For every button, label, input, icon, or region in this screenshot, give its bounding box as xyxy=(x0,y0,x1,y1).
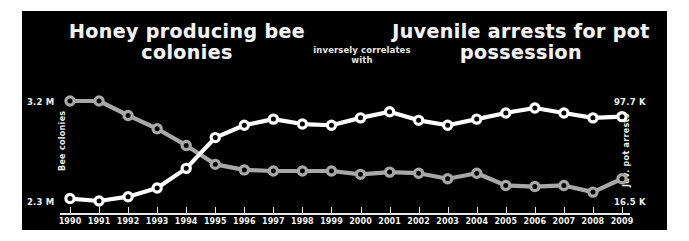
data-point-marker xyxy=(124,111,132,119)
x-axis-label-2005: 2005 xyxy=(494,217,517,226)
x-axis-tick xyxy=(564,207,565,213)
x-axis-tick xyxy=(215,207,216,213)
x-axis-tick xyxy=(390,207,391,213)
data-point-marker xyxy=(153,125,161,133)
data-point-marker xyxy=(240,121,248,129)
data-point-marker xyxy=(269,167,277,175)
data-point-marker xyxy=(560,181,568,189)
x-axis-tick xyxy=(361,207,362,213)
x-axis-label-1990: 1990 xyxy=(59,217,82,226)
data-point-marker xyxy=(385,108,393,116)
x-axis-line xyxy=(60,213,630,215)
x-axis-tick xyxy=(128,207,129,213)
data-point-marker xyxy=(95,97,103,105)
x-axis-tick xyxy=(506,207,507,213)
data-point-marker xyxy=(356,170,364,178)
data-point-marker xyxy=(298,120,306,128)
x-axis-tick xyxy=(302,207,303,213)
data-point-marker xyxy=(124,193,132,201)
data-point-marker xyxy=(269,115,277,123)
data-point-marker xyxy=(589,188,597,196)
data-point-marker xyxy=(444,175,452,183)
data-point-marker xyxy=(66,194,74,202)
data-point-marker xyxy=(211,133,219,141)
x-axis-tick xyxy=(244,207,245,213)
data-point-marker xyxy=(415,116,423,124)
data-point-marker xyxy=(182,141,190,149)
data-point-marker xyxy=(502,181,510,189)
x-axis-tick xyxy=(448,207,449,213)
x-axis-label-1995: 1995 xyxy=(204,217,227,226)
data-point-marker xyxy=(618,113,626,121)
data-point-marker xyxy=(618,175,626,183)
x-axis-label-1991: 1991 xyxy=(88,217,111,226)
plot-area xyxy=(22,11,667,230)
series-lines xyxy=(22,11,667,230)
series-bee-colonies xyxy=(66,97,626,196)
x-axis-label-1996: 1996 xyxy=(233,217,256,226)
data-point-marker xyxy=(66,97,74,105)
x-axis-label-2001: 2001 xyxy=(378,217,401,226)
data-point-marker xyxy=(153,184,161,192)
x-axis-label-2008: 2008 xyxy=(582,217,605,226)
data-point-marker xyxy=(444,121,452,129)
x-axis-label-1999: 1999 xyxy=(320,217,343,226)
x-axis-label-2009: 2009 xyxy=(611,217,634,226)
data-point-marker xyxy=(473,169,481,177)
x-axis-label-2000: 2000 xyxy=(349,217,372,226)
data-point-marker xyxy=(502,109,510,117)
data-point-marker xyxy=(327,121,335,129)
x-axis-tick xyxy=(419,207,420,213)
data-point-marker xyxy=(356,114,364,122)
data-point-marker xyxy=(589,114,597,122)
x-axis-label-2006: 2006 xyxy=(523,217,546,226)
x-axis-tick xyxy=(99,207,100,213)
x-axis-tick xyxy=(70,207,71,213)
x-axis-tick xyxy=(273,207,274,213)
data-point-marker xyxy=(240,166,248,174)
x-axis-label-1998: 1998 xyxy=(291,217,314,226)
x-axis-tick xyxy=(535,207,536,213)
series-pot-arrests xyxy=(66,104,626,205)
data-point-marker xyxy=(385,168,393,176)
data-point-marker xyxy=(95,197,103,205)
x-axis-tick xyxy=(622,207,623,213)
x-axis-tick xyxy=(477,207,478,213)
x-axis-tick xyxy=(186,207,187,213)
x-axis-label-2003: 2003 xyxy=(436,217,459,226)
x-axis-label-1994: 1994 xyxy=(175,217,198,226)
x-axis-label-2007: 2007 xyxy=(553,217,576,226)
data-point-marker xyxy=(298,167,306,175)
data-point-marker xyxy=(327,167,335,175)
x-axis-label-1993: 1993 xyxy=(146,217,169,226)
data-point-marker xyxy=(560,109,568,117)
x-axis-label-2004: 2004 xyxy=(465,217,488,226)
chart-image: Honey producing bee colonies inversely c… xyxy=(0,0,689,241)
x-axis-label-1992: 1992 xyxy=(117,217,140,226)
data-point-marker xyxy=(531,182,539,190)
series-line xyxy=(70,101,622,192)
data-point-marker xyxy=(415,169,423,177)
data-point-marker xyxy=(531,104,539,112)
x-axis-tick xyxy=(331,207,332,213)
data-point-marker xyxy=(211,160,219,168)
data-point-marker xyxy=(182,164,190,172)
chart-panel: Honey producing bee colonies inversely c… xyxy=(22,11,667,230)
x-axis-label-1997: 1997 xyxy=(262,217,285,226)
data-point-marker xyxy=(473,115,481,123)
x-axis-tick xyxy=(593,207,594,213)
x-axis-tick xyxy=(157,207,158,213)
x-axis-label-2002: 2002 xyxy=(407,217,430,226)
